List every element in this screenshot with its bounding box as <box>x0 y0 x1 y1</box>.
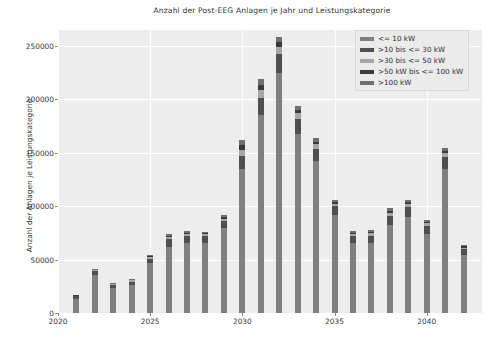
legend-item-1[interactable]: >10 bis <= 30 kW <box>360 45 463 54</box>
x-tick-mark <box>150 313 151 316</box>
chart-figure: Anzahl der Post-EEG Anlagen je Jahr und … <box>0 0 486 344</box>
legend-swatch-icon <box>360 70 374 74</box>
legend-label: >10 bis <= 30 kW <box>378 45 445 54</box>
legend-swatch-icon <box>360 37 374 41</box>
legend-item-4[interactable]: >100 kW <box>360 78 463 87</box>
legend-swatch-icon <box>360 59 374 63</box>
x-tick-label: 2035 <box>325 317 344 326</box>
legend-label: >100 kW <box>378 78 411 87</box>
x-tick-label: 2025 <box>141 317 160 326</box>
legend-swatch-icon <box>360 81 374 85</box>
x-tick-mark <box>58 313 59 316</box>
chart-legend: <= 10 kW>10 bis <= 30 kW>30 bis <= 50 kW… <box>355 30 469 91</box>
x-tick-label: 2020 <box>49 317 68 326</box>
legend-item-0[interactable]: <= 10 kW <box>360 34 463 43</box>
legend-swatch-icon <box>360 48 374 52</box>
x-tick-mark <box>242 313 243 316</box>
legend-item-2[interactable]: >30 bis <= 50 kW <box>360 56 463 65</box>
legend-label: >30 bis <= 50 kW <box>378 56 445 65</box>
x-tick-mark <box>335 313 336 316</box>
x-tick-mark <box>427 313 428 316</box>
legend-label: >50 kW bis <= 100 kW <box>378 67 463 76</box>
x-tick-label: 2030 <box>233 317 252 326</box>
legend-item-3[interactable]: >50 kW bis <= 100 kW <box>360 67 463 76</box>
legend-label: <= 10 kW <box>378 34 415 43</box>
x-tick-label: 2040 <box>417 317 436 326</box>
